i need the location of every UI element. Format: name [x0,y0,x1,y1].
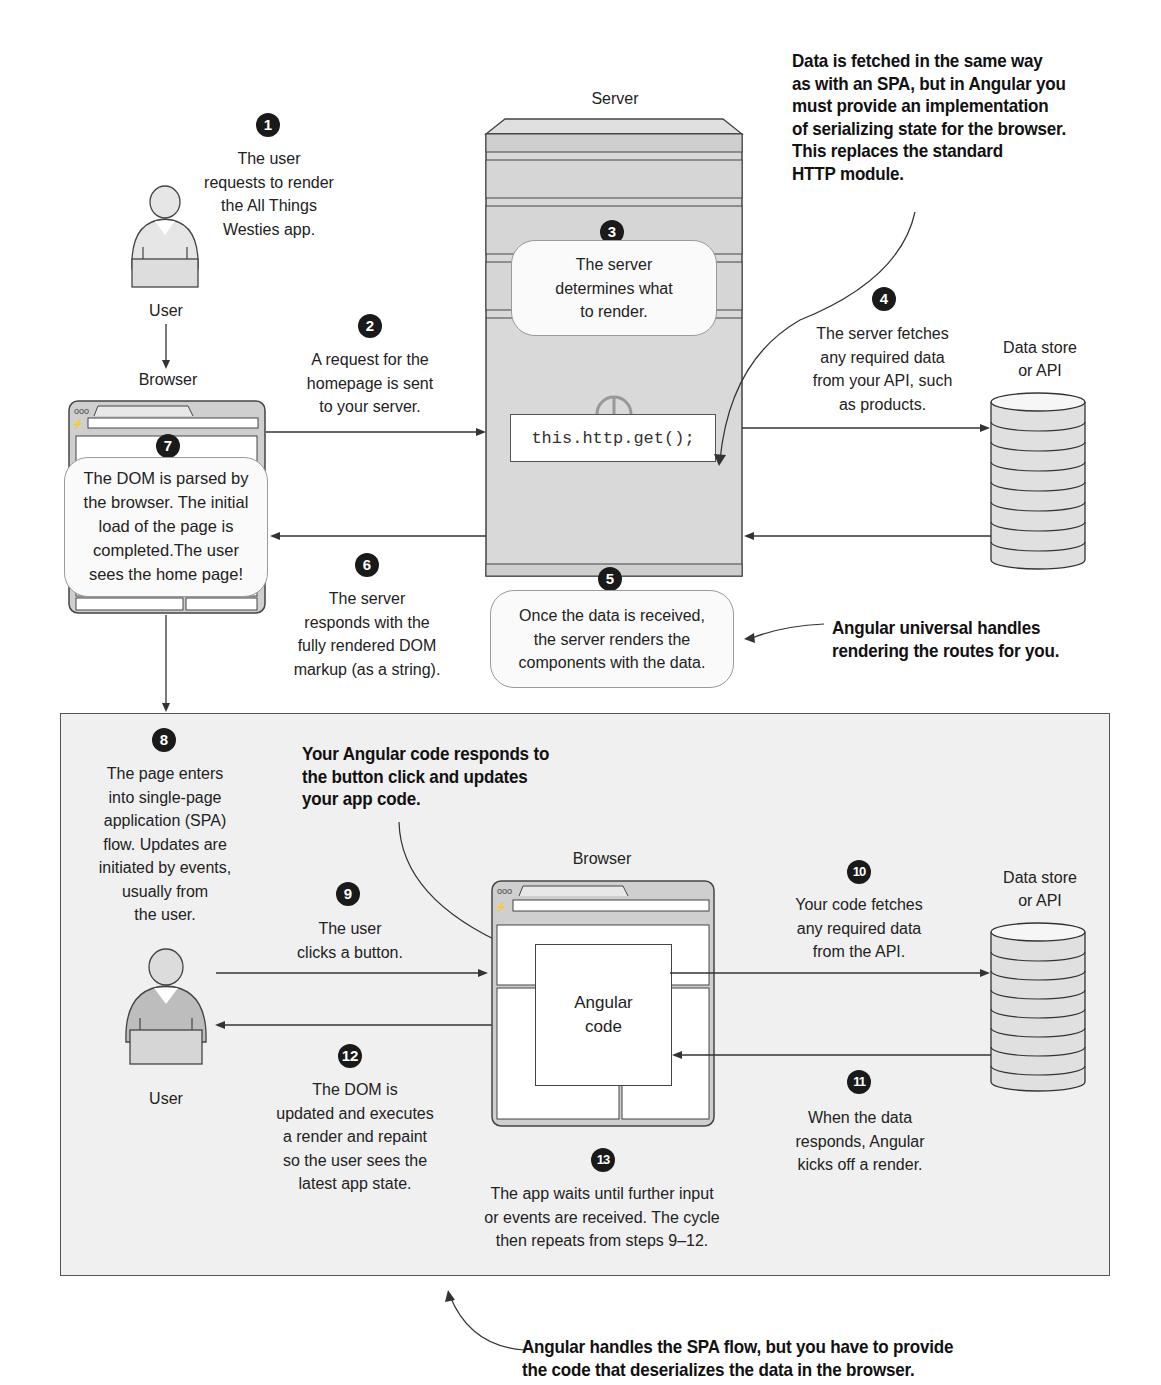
step-badge-13: 13 [591,1148,615,1172]
text-line: Angular universal handles [832,617,1126,640]
step-badge-8: 8 [152,728,176,752]
datastore-label-bottom: Data store or API [985,866,1095,912]
footer-callout: Angular handles the SPA flow, but you ha… [522,1336,1000,1381]
step-badge-9: 9 [336,882,360,906]
angular-code-box: Angular code [535,944,672,1086]
curved-arrow-serialization [700,210,920,470]
text-line: your app code. [302,788,596,811]
text-line: Your code fetches [778,893,940,917]
text-line: Once the data is received, [491,604,733,628]
text-line: completed.The user [65,538,267,562]
callout-serialization: Data is fetched in the same way as with … [792,50,1142,185]
text-line: Data store [985,336,1095,359]
text-line: components with the data. [491,651,733,675]
arrow-browser-to-spa [160,615,172,715]
text-line: the user. [80,903,250,927]
text-line: sees the home page! [65,562,267,586]
text-line: determines what [512,277,716,301]
step-badge-7: 7 [156,434,180,458]
text-line: any required data [778,917,940,941]
text-line: markup (as a string). [280,658,454,682]
text-line: or API [985,889,1095,912]
step-5-bubble: Once the data is received, the server re… [490,590,734,688]
user-label-bottom: User [140,1090,192,1108]
callout-universal: Angular universal handles rendering the … [832,617,1126,662]
step-11-text: When the data responds, Angular kicks of… [780,1106,940,1177]
database-icon [990,922,1086,1094]
arrow-angular-to-datastore [670,968,992,978]
text-line: the code that deserializes the data in t… [522,1359,1000,1382]
text-line: the All Things [200,194,338,218]
text-line: homepage is sent [290,372,450,396]
code-snippet-http-get: this.http.get(); [510,414,716,462]
text-line: to render. [512,300,716,324]
step-8-text: The page enters into single-page applica… [80,762,250,927]
user-icon [122,948,212,1068]
step-7-bubble: The DOM is parsed by the browser. The in… [64,457,268,597]
text-line: as with an SPA, but in Angular you [792,73,1142,96]
arrow-datastore-to-server [742,531,992,541]
text-line: the button click and updates [302,766,596,789]
step-badge-5: 5 [598,567,622,591]
step-12-text: The DOM is updated and executes a render… [260,1078,450,1196]
step-badge-11: 11 [847,1070,871,1094]
step-badge-10: 10 [847,860,871,884]
text-line: Your Angular code responds to [302,743,596,766]
text-line: from the API. [778,940,940,964]
step-badge-1: 1 [256,113,280,137]
text-line: to your server. [290,395,450,419]
user-icon [128,185,208,290]
text-line: the browser. The initial [65,490,267,514]
svg-text:ooo: ooo [74,406,89,416]
text-line: kicks off a render. [780,1153,940,1177]
text-line: or API [985,359,1095,382]
svg-text:⚡: ⚡ [495,901,506,913]
arrow-user-to-browser-click [216,968,490,978]
text-line: fully rendered DOM [280,634,454,658]
step-9-text: The user clicks a button. [270,917,430,964]
step-badge-6: 6 [355,553,379,577]
text-line: clicks a button. [270,941,430,965]
step-3-bubble: The server determines what to render. [511,240,717,336]
text-line: When the data [780,1106,940,1130]
text-line: The page enters [80,762,250,786]
text-line: must provide an implementation [792,95,1142,118]
text-line: usually from [80,880,250,904]
datastore-label-top: Data store or API [985,336,1095,382]
step-2-text: A request for the homepage is sent to yo… [290,348,450,419]
arrow-user-to-browser [160,324,172,370]
text-line: a render and repaint [260,1125,450,1149]
step-10-text: Your code fetches any required data from… [778,893,940,964]
text-line: The app waits until further input [452,1182,752,1206]
text-line: The DOM is [260,1078,450,1102]
text-line: Angular handles the SPA flow, but you ha… [522,1336,1000,1359]
browser-label-top: Browser [128,371,208,389]
curved-arrow-universal [742,622,832,646]
database-icon [990,392,1086,572]
text-line: flow. Updates are [80,833,250,857]
text-line: The server [512,253,716,277]
step-1-text: The user requests to render the All Thin… [200,147,338,241]
text-line: load of the page is [65,514,267,538]
server-label: Server [570,90,660,108]
step-6-text: The server responds with the fully rende… [280,587,454,681]
arrow-browser-to-user-repaint [213,1020,493,1030]
text-line: rendering the routes for you. [832,640,1126,663]
text-line: initiated by events, [80,856,250,880]
step-badge-2: 2 [358,314,382,338]
arrow-server-to-browser [268,531,488,541]
browser-label-bottom: Browser [560,850,644,868]
text-line: requests to render [200,171,338,195]
text-line: updated and executes [260,1102,450,1126]
text-line: The user [270,917,430,941]
text-line: Data store [985,866,1095,889]
text-line: HTTP module. [792,163,1142,186]
text-line: This replaces the standard [792,140,1142,163]
text-line: so the user sees the [260,1149,450,1173]
text-line: The user [200,147,338,171]
text-line: into single-page [80,786,250,810]
text-line: The DOM is parsed by [65,466,267,490]
text-line: Data is fetched in the same way [792,50,1142,73]
text-line: responds with the [280,611,454,635]
text-line: The server [280,587,454,611]
